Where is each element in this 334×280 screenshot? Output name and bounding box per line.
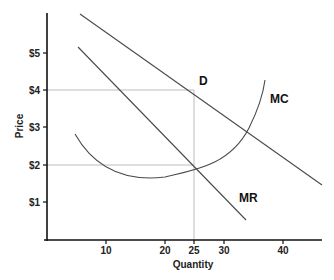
- economics-chart: $5 $4 $3 $2 $1 10 20 25 30 40 Quantity P…: [0, 0, 334, 280]
- marginal-cost-curve: [75, 80, 265, 178]
- y-tick-labels: $5 $4 $3 $2 $1: [29, 48, 41, 208]
- marginal-revenue-curve: [78, 47, 246, 220]
- demand-label: D: [199, 74, 208, 88]
- x-tick-label: 40: [277, 245, 289, 256]
- reference-lines: [47, 90, 194, 240]
- curves: [75, 14, 322, 220]
- x-tick-labels: 10 20 25 30 40: [100, 245, 289, 256]
- y-tick-label: $4: [29, 85, 41, 96]
- x-tick-label: 30: [218, 245, 230, 256]
- y-tick-label: $1: [29, 197, 41, 208]
- y-tick-label: $3: [29, 122, 41, 133]
- axes: [44, 13, 322, 241]
- marginal-cost-label: MC: [270, 92, 289, 106]
- x-axis-title: Quantity: [173, 259, 214, 270]
- y-tick-label: $2: [29, 160, 41, 171]
- x-tick-label: 10: [100, 245, 112, 256]
- y-axis-title: Price: [14, 113, 25, 138]
- x-tick-label: 20: [159, 245, 171, 256]
- y-tick-label: $5: [29, 48, 41, 59]
- x-tick-label: 25: [188, 245, 200, 256]
- marginal-revenue-label: MR: [239, 191, 258, 205]
